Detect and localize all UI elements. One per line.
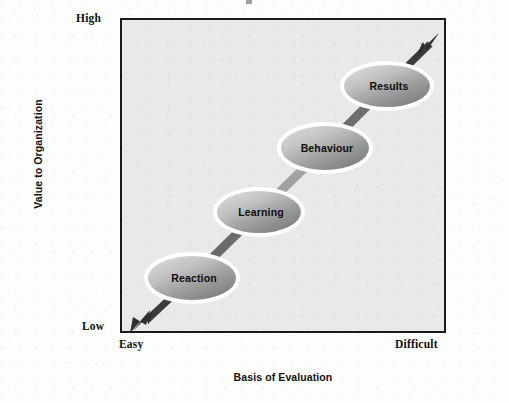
results-label: Results xyxy=(370,80,409,92)
y-axis-tick-low: Low xyxy=(82,320,104,332)
node-results[interactable]: Results xyxy=(340,61,434,111)
progression-band xyxy=(192,86,387,278)
x-axis-tick-easy: Easy xyxy=(119,338,143,350)
node-behaviour[interactable]: Behaviour xyxy=(277,122,373,174)
diagram-svg: Reaction Learning Behaviour Results xyxy=(122,20,448,335)
reaction-label: Reaction xyxy=(171,272,217,284)
node-learning[interactable]: Learning xyxy=(213,187,305,237)
y-axis-tick-high: High xyxy=(76,12,101,24)
x-axis-tick-difficult: Difficult xyxy=(395,338,438,350)
scan-artifact xyxy=(246,0,252,4)
node-reaction[interactable]: Reaction xyxy=(144,252,240,304)
x-axis-title: Basis of Evaluation xyxy=(120,371,446,383)
figure-canvas: High Low Easy Difficult Value to Organiz… xyxy=(0,0,509,403)
behaviour-label: Behaviour xyxy=(301,142,354,154)
plot-frame: Reaction Learning Behaviour Results xyxy=(120,18,446,333)
learning-label: Learning xyxy=(238,206,284,218)
y-axis-title: Value to Organization xyxy=(32,84,44,224)
